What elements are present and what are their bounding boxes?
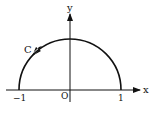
x-axis-label: x [143, 84, 149, 95]
y-axis-label: y [66, 2, 73, 13]
curve-label: C [24, 44, 32, 55]
right-tick-label: 1 [118, 93, 124, 103]
contour-diagram: y x C −1 O 1 [0, 0, 153, 114]
left-tick-label: −1 [13, 93, 26, 103]
origin-label: O [61, 91, 68, 101]
